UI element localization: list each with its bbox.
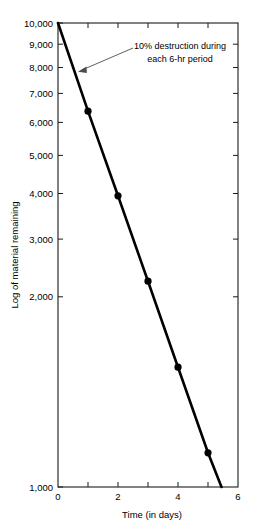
semilog-decay-plot: 10,000 9,000 8,000 7,000 6,000 5,000 4,0… — [0, 0, 256, 528]
plot-frame — [58, 23, 238, 487]
data-point — [114, 192, 121, 199]
x-tick-label-0: 0 — [55, 491, 60, 502]
chart-figure: 10,000 9,000 8,000 7,000 6,000 5,000 4,0… — [0, 0, 256, 528]
annotation-line-2: each 6-hr period — [147, 54, 213, 64]
data-point — [204, 449, 211, 456]
y-tick-label-1000: 1,000 — [29, 482, 53, 493]
y-tick-label-9000: 9,000 — [29, 39, 53, 50]
data-point — [144, 278, 151, 285]
y-tick-label-6000: 6,000 — [29, 117, 53, 128]
annotation-line-1: 10% destruction during — [134, 41, 226, 51]
y-tick-label-4000: 4,000 — [29, 188, 53, 199]
x-tick-label-4: 4 — [175, 491, 180, 502]
x-tick-label-6: 6 — [235, 491, 240, 502]
y-tick-label-2000: 2,000 — [29, 291, 53, 302]
y-tick-label-5000: 5,000 — [29, 150, 53, 161]
data-point — [84, 108, 91, 115]
y-tick-label-3000: 3,000 — [29, 234, 53, 245]
data-point — [174, 364, 181, 371]
y-tick-label-10000: 10,000 — [24, 18, 53, 29]
x-tick-label-2: 2 — [115, 491, 120, 502]
y-axis-title: Log of material remaining — [9, 201, 20, 308]
y-tick-label-8000: 8,000 — [29, 62, 53, 73]
y-tick-label-7000: 7,000 — [29, 88, 53, 99]
x-axis-title: Time (in days) — [122, 509, 182, 520]
